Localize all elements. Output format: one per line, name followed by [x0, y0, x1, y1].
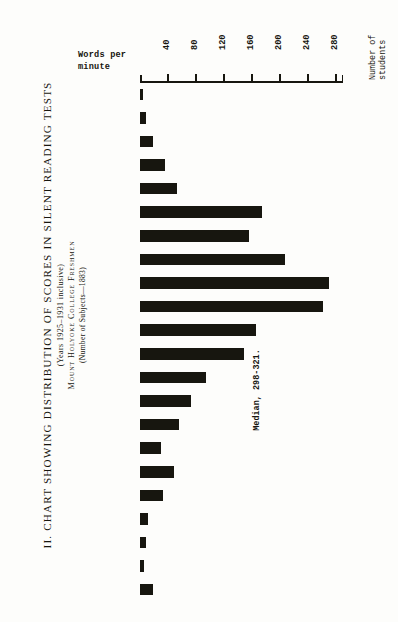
axis-tick	[195, 74, 196, 82]
bar	[140, 348, 244, 360]
axis-tick	[335, 74, 336, 82]
bar	[140, 206, 262, 218]
bar	[140, 584, 153, 596]
bar	[140, 560, 144, 572]
bar	[140, 159, 165, 171]
bar	[140, 112, 146, 124]
bar	[140, 466, 174, 478]
bar	[140, 89, 143, 101]
axis-tick-label: 120	[218, 35, 228, 50]
bar	[140, 230, 249, 242]
bar	[140, 277, 329, 289]
bar	[140, 324, 256, 336]
axis-tick-label: 80	[190, 40, 200, 50]
axis-tick	[223, 74, 224, 82]
axis-tick-label: 240	[302, 35, 312, 50]
bar	[140, 254, 285, 266]
bar	[140, 183, 177, 195]
bar	[140, 513, 148, 525]
bar	[140, 136, 153, 148]
bar	[140, 419, 179, 431]
bar	[140, 442, 161, 454]
bar	[140, 301, 323, 313]
chart-page: II. CHART SHOWING DISTRIBUTION OF SCORES…	[0, 0, 398, 622]
median-annotation: Median, 298-321.	[252, 347, 262, 433]
value-axis-right-cap	[342, 75, 344, 82]
bar	[140, 537, 146, 549]
axis-tick	[251, 74, 252, 82]
value-axis-left-cap	[140, 75, 142, 82]
bar	[140, 395, 191, 407]
axis-tick	[167, 74, 168, 82]
axis-tick	[279, 74, 280, 82]
value-axis-line	[140, 81, 343, 83]
bar	[140, 372, 206, 384]
chart-area: 4080120160200240280 82-105106-129130-153…	[0, 0, 398, 622]
axis-tick-label: 280	[330, 35, 340, 50]
axis-tick	[307, 74, 308, 82]
axis-tick-label: 40	[162, 40, 172, 50]
axis-tick-label: 160	[246, 35, 256, 50]
bar	[140, 490, 163, 502]
axis-tick-label: 200	[274, 35, 284, 50]
